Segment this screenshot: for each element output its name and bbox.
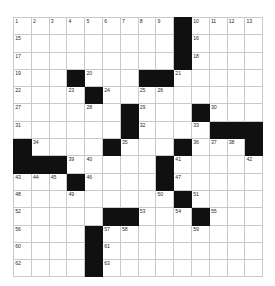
crossword-cell[interactable] — [49, 225, 67, 242]
crossword-cell[interactable] — [49, 104, 67, 121]
crossword-cell[interactable] — [227, 69, 245, 86]
crossword-cell[interactable] — [227, 156, 245, 173]
crossword-cell[interactable] — [174, 121, 192, 138]
crossword-cell[interactable]: 41 — [174, 156, 192, 173]
crossword-cell[interactable]: 37 — [209, 139, 227, 156]
crossword-cell[interactable] — [85, 52, 103, 69]
crossword-cell[interactable] — [102, 156, 120, 173]
crossword-cell[interactable] — [67, 208, 85, 225]
crossword-cell[interactable]: 6 — [102, 18, 120, 35]
crossword-cell[interactable]: 3 — [49, 18, 67, 35]
crossword-cell[interactable] — [102, 52, 120, 69]
crossword-cell[interactable]: 62 — [14, 260, 32, 277]
crossword-cell[interactable]: 16 — [191, 35, 209, 52]
crossword-cell[interactable] — [245, 225, 263, 242]
crossword-cell[interactable] — [156, 104, 174, 121]
crossword-cell[interactable]: 10 — [191, 18, 209, 35]
crossword-cell[interactable] — [120, 69, 138, 86]
crossword-cell[interactable]: 50 — [156, 190, 174, 207]
crossword-cell[interactable]: 2 — [31, 18, 49, 35]
crossword-cell[interactable]: 23 — [67, 87, 85, 104]
crossword-cell[interactable] — [245, 87, 263, 104]
crossword-cell[interactable] — [49, 87, 67, 104]
crossword-cell[interactable]: 21 — [174, 69, 192, 86]
crossword-cell[interactable] — [156, 139, 174, 156]
crossword-cell[interactable] — [209, 52, 227, 69]
crossword-cell[interactable] — [174, 242, 192, 259]
crossword-cell[interactable]: 4 — [67, 18, 85, 35]
crossword-cell[interactable] — [67, 225, 85, 242]
crossword-cell[interactable] — [67, 104, 85, 121]
crossword-cell[interactable] — [120, 35, 138, 52]
crossword-cell[interactable] — [138, 35, 156, 52]
crossword-cell[interactable] — [209, 260, 227, 277]
crossword-cell[interactable] — [31, 190, 49, 207]
crossword-cell[interactable] — [120, 190, 138, 207]
crossword-cell[interactable]: 8 — [138, 18, 156, 35]
crossword-cell[interactable] — [31, 35, 49, 52]
crossword-cell[interactable] — [31, 242, 49, 259]
crossword-cell[interactable] — [31, 104, 49, 121]
crossword-cell[interactable] — [209, 190, 227, 207]
crossword-cell[interactable]: 19 — [14, 69, 32, 86]
crossword-cell[interactable]: 30 — [209, 104, 227, 121]
crossword-cell[interactable] — [120, 242, 138, 259]
crossword-cell[interactable] — [245, 35, 263, 52]
crossword-cell[interactable] — [31, 208, 49, 225]
crossword-cell[interactable]: 48 — [14, 190, 32, 207]
crossword-cell[interactable]: 13 — [245, 18, 263, 35]
crossword-cell[interactable] — [245, 260, 263, 277]
crossword-cell[interactable] — [156, 242, 174, 259]
crossword-cell[interactable] — [120, 87, 138, 104]
crossword-cell[interactable]: 59 — [191, 225, 209, 242]
crossword-cell[interactable] — [227, 173, 245, 190]
crossword-cell[interactable] — [209, 69, 227, 86]
crossword-cell[interactable]: 5 — [85, 18, 103, 35]
crossword-cell[interactable] — [209, 87, 227, 104]
crossword-cell[interactable] — [49, 121, 67, 138]
crossword-cell[interactable] — [31, 225, 49, 242]
crossword-cell[interactable] — [138, 156, 156, 173]
crossword-cell[interactable]: 15 — [14, 35, 32, 52]
crossword-cell[interactable] — [49, 69, 67, 86]
crossword-cell[interactable] — [245, 69, 263, 86]
crossword-cell[interactable] — [227, 208, 245, 225]
crossword-cell[interactable]: 42 — [245, 156, 263, 173]
crossword-cell[interactable]: 24 — [102, 87, 120, 104]
crossword-cell[interactable] — [67, 121, 85, 138]
crossword-cell[interactable]: 29 — [138, 104, 156, 121]
crossword-cell[interactable]: 36 — [191, 139, 209, 156]
crossword-cell[interactable]: 43 — [14, 173, 32, 190]
crossword-cell[interactable] — [245, 52, 263, 69]
crossword-cell[interactable] — [209, 35, 227, 52]
crossword-cell[interactable]: 61 — [102, 242, 120, 259]
crossword-cell[interactable] — [138, 242, 156, 259]
crossword-cell[interactable]: 31 — [14, 121, 32, 138]
crossword-cell[interactable]: 18 — [191, 52, 209, 69]
crossword-cell[interactable]: 12 — [227, 18, 245, 35]
crossword-cell[interactable]: 9 — [156, 18, 174, 35]
crossword-cell[interactable]: 44 — [31, 173, 49, 190]
crossword-cell[interactable]: 34 — [31, 139, 49, 156]
crossword-cell[interactable]: 53 — [138, 208, 156, 225]
crossword-cell[interactable] — [174, 260, 192, 277]
crossword-cell[interactable] — [227, 104, 245, 121]
crossword-cell[interactable] — [102, 190, 120, 207]
crossword-cell[interactable]: 45 — [49, 173, 67, 190]
crossword-cell[interactable] — [245, 190, 263, 207]
crossword-cell[interactable] — [67, 242, 85, 259]
crossword-cell[interactable] — [156, 260, 174, 277]
crossword-cell[interactable]: 33 — [191, 121, 209, 138]
crossword-cell[interactable] — [227, 87, 245, 104]
crossword-cell[interactable]: 46 — [85, 173, 103, 190]
crossword-cell[interactable]: 55 — [209, 208, 227, 225]
crossword-cell[interactable]: 26 — [156, 87, 174, 104]
crossword-cell[interactable]: 58 — [120, 225, 138, 242]
crossword-cell[interactable] — [49, 35, 67, 52]
crossword-cell[interactable]: 17 — [14, 52, 32, 69]
crossword-cell[interactable]: 28 — [85, 104, 103, 121]
crossword-cell[interactable] — [209, 173, 227, 190]
crossword-cell[interactable] — [31, 87, 49, 104]
crossword-cell[interactable] — [138, 52, 156, 69]
crossword-cell[interactable]: 32 — [138, 121, 156, 138]
